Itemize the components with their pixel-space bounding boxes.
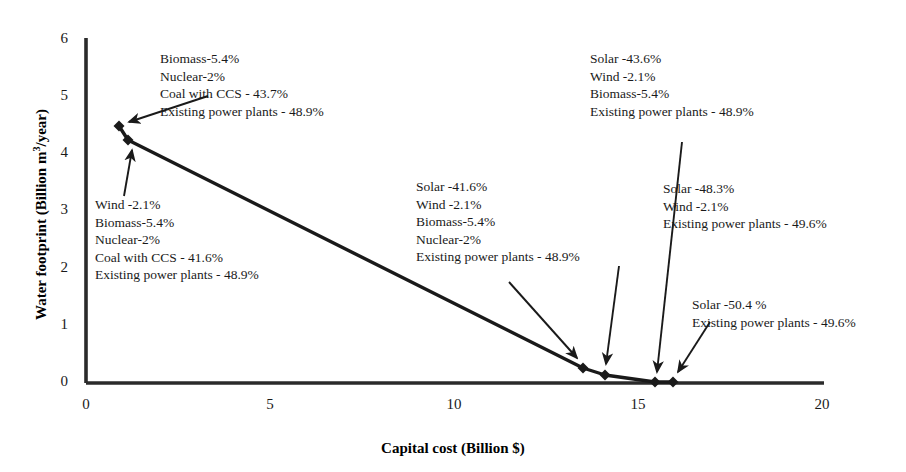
data-point-4 [600,370,611,381]
annotation-5-line-3: Existing power plants - 49.6% [663,215,827,233]
annotation-block-2: Wind -2.1% Biomass-5.4% Nuclear-2% Coal … [95,196,259,284]
annotation-3-line-1: Solar -41.6% [416,178,580,196]
x-tick-10: 10 [440,396,468,413]
y-tick-6: 6 [46,30,68,47]
y-axis-title-suffix: /year) [33,109,49,146]
annotation-5-line-2: Wind -2.1% [663,198,827,216]
data-point-5 [650,377,661,388]
leader-line-5 [657,142,682,372]
x-tick-15: 15 [624,396,652,413]
annotation-3-line-4: Nuclear-2% [416,231,580,249]
annotation-block-6: Solar -50.4 % Existing power plants - 49… [692,296,856,331]
annotation-2-line-5: Existing power plants - 48.9% [95,266,259,284]
y-axis-title: Water footprint (Billion m3/year) [31,55,50,375]
data-point-3 [578,363,589,374]
annotation-block-1: Biomass-5.4% Nuclear-2% Coal with CCS - … [160,50,324,120]
annotation-3-line-2: Wind -2.1% [416,196,580,214]
annotation-6-line-1: Solar -50.4 % [692,296,856,314]
annotation-4-line-3: Biomass-5.4% [590,85,754,103]
x-tick-5: 5 [256,396,284,413]
annotation-4-line-1: Solar -43.6% [590,50,754,68]
chart-page: 6 5 4 3 2 1 0 0 5 10 15 20 Capital cost … [0,0,906,472]
annotation-5-line-1: Solar -48.3% [663,180,827,198]
annotation-3-line-5: Existing power plants - 48.9% [416,248,580,266]
annotation-3-line-3: Biomass-5.4% [416,213,580,231]
leader-line-2 [124,150,132,196]
y-axis-title-prefix: Water footprint (Billion m [33,152,49,320]
annotation-6-line-2: Existing power plants - 49.6% [692,314,856,332]
annotation-2-line-3: Nuclear-2% [95,231,259,249]
annotation-block-4: Solar -43.6% Wind -2.1% Biomass-5.4% Exi… [590,50,754,120]
annotation-1-line-2: Nuclear-2% [160,68,324,86]
x-tick-0: 0 [72,396,100,413]
annotation-block-3: Solar -41.6% Wind -2.1% Biomass-5.4% Nuc… [416,178,580,266]
annotation-4-line-2: Wind -2.1% [590,68,754,86]
y-axis-title-exponent: 3 [31,146,42,151]
annotation-1-line-1: Biomass-5.4% [160,50,324,68]
annotation-2-line-4: Coal with CCS - 41.6% [95,249,259,267]
y-tick-0: 0 [46,373,68,390]
data-point-6 [668,377,679,388]
x-axis-title: Capital cost (Billion $) [0,440,906,457]
leader-line-4 [606,266,619,364]
x-tick-20: 20 [808,396,836,413]
annotation-1-line-4: Existing power plants - 48.9% [160,103,324,121]
annotation-4-line-4: Existing power plants - 48.9% [590,103,754,121]
annotation-2-line-2: Biomass-5.4% [95,214,259,232]
annotation-1-line-3: Coal with CCS - 43.7% [160,85,324,103]
annotation-2-line-1: Wind -2.1% [95,196,259,214]
annotation-block-5: Solar -48.3% Wind -2.1% Existing power p… [663,180,827,233]
